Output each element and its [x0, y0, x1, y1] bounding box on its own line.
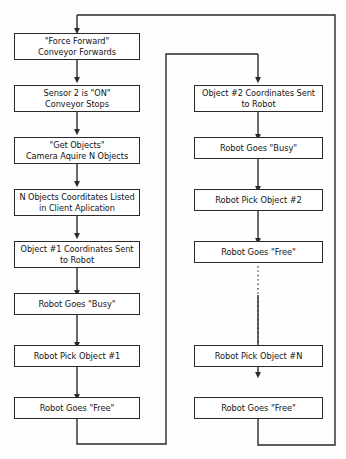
node-force-forward[interactable]: "Force Forward" Conveyor Forwards	[14, 33, 140, 60]
node-sensor-2-on[interactable]: Sensor 2 is "ON" Conveyor Stops	[14, 85, 140, 112]
node-object-2-coordinates[interactable]: Object #2 Coordinates Sent to Robot	[194, 85, 323, 112]
right-loop-path	[77, 15, 335, 445]
node-robot-busy-2[interactable]: Robot Goes "Busy"	[194, 137, 323, 159]
node-robot-busy-1[interactable]: Robot Goes "Busy"	[14, 293, 140, 315]
flowchart-canvas: "Force Forward" Conveyor Forwards Sensor…	[0, 0, 346, 459]
node-robot-free-1[interactable]: Robot Goes "Free"	[14, 397, 140, 419]
node-robot-pick-2[interactable]: Robot Pick Object #2	[194, 189, 323, 211]
connector-lines	[0, 0, 346, 459]
node-n-objects-listed[interactable]: N Objects Coorditates Listed in Client A…	[14, 189, 140, 216]
node-get-objects[interactable]: "Get Objects" Camera Aquire N Objects	[14, 137, 140, 164]
node-robot-free-2[interactable]: Robot Goes "Free"	[194, 241, 323, 263]
node-robot-free-n[interactable]: Robot Goes "Free"	[194, 397, 323, 419]
node-object-1-coordinates[interactable]: Object #1 Coordinates Sent to Robot	[14, 241, 140, 268]
node-robot-pick-n[interactable]: Robot Pick Object #N	[194, 345, 323, 367]
node-robot-pick-1[interactable]: Robot Pick Object #1	[14, 345, 140, 367]
